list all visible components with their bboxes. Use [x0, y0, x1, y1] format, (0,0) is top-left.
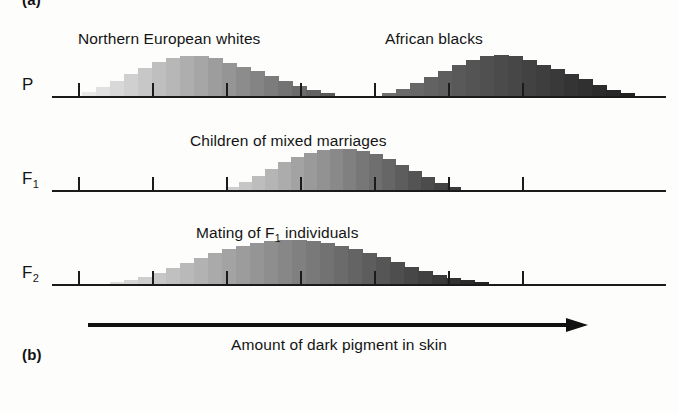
polygenic-inheritance-figure: (a) P Northern European whites African b… [0, 0, 678, 413]
caption-african-blacks: African blacks [385, 30, 483, 48]
histogram-bar [194, 258, 209, 284]
histogram-bar [550, 69, 565, 96]
axis-f2 [52, 284, 666, 286]
histogram-bar [264, 76, 279, 96]
histogram-bar [343, 149, 357, 190]
panel-tag-b: (b) [22, 346, 42, 363]
histogram-bar [239, 182, 253, 190]
histogram-bar [432, 275, 447, 284]
histogram-bar [194, 56, 209, 96]
histogram-bar [138, 277, 153, 284]
histogram-bar [434, 183, 448, 190]
row-label-f2-text: F [22, 263, 33, 282]
pigment-axis-arrow [88, 318, 588, 334]
histogram-bar [166, 58, 181, 96]
histogram-bar [250, 71, 265, 96]
histogram-bar [348, 249, 363, 284]
histogram-bar [278, 162, 292, 190]
histogram-bar [390, 262, 405, 284]
histogram-bar [250, 243, 265, 284]
histogram-bar [522, 60, 537, 96]
histogram-bar [356, 151, 370, 190]
histogram-bar [236, 67, 251, 96]
row-label-f2-sub: 2 [33, 272, 39, 284]
axis-tick [152, 83, 154, 98]
histogram-bar [152, 62, 167, 96]
histogram-bar [278, 81, 293, 96]
histogram-bar [410, 83, 425, 96]
row-label-f1: F1 [22, 169, 39, 190]
axis-line-f2 [52, 284, 666, 286]
histogram-bar [208, 58, 223, 96]
histogram-bar [278, 240, 293, 284]
histogram-bar [265, 169, 279, 190]
histogram-bar [330, 149, 344, 190]
histogram-bar [395, 165, 409, 190]
histogram-bar [138, 68, 153, 96]
histogram-bar [466, 60, 481, 96]
axis-tick [448, 177, 450, 192]
caption-mating-of-f1-individuals: Mating of F1 individuals [196, 224, 358, 244]
axis-f1 [52, 190, 666, 192]
axis-tick [448, 271, 450, 286]
histogram-bar [334, 246, 349, 284]
histogram-bar [306, 241, 321, 284]
histogram-bar [452, 65, 467, 96]
histogram-bar [96, 87, 111, 96]
arrow-shaft [88, 323, 566, 327]
row-label-f2: F2 [22, 263, 39, 284]
histogram-bar [376, 257, 391, 284]
histogram-bar [317, 150, 331, 190]
histogram-bar [494, 55, 509, 96]
axis-tick [374, 177, 376, 192]
histogram-f2 [52, 224, 666, 284]
axis-tick [226, 271, 228, 286]
axis-tick [522, 83, 524, 98]
arrow-head-icon [566, 318, 588, 332]
row-label-f1-text: F [22, 169, 33, 188]
histogram-bar [404, 267, 419, 284]
histogram-bar [236, 246, 251, 284]
histogram-bar [222, 249, 237, 284]
axis-tick [78, 271, 80, 286]
histogram-bar [592, 85, 607, 96]
row-label-p: P [22, 75, 34, 96]
histogram-bar [208, 253, 223, 284]
histogram-bar [124, 74, 139, 96]
axis-tick [300, 83, 302, 98]
axis-line-p [52, 96, 666, 98]
histogram-bar [110, 81, 125, 96]
histogram-bar [480, 56, 495, 96]
row-label-f1-sub: 1 [33, 178, 39, 190]
axis-p [52, 96, 666, 98]
histogram-bar [320, 243, 335, 284]
row-label-p-text: P [22, 75, 34, 94]
histogram-bar [438, 71, 453, 96]
histogram-bar [508, 56, 523, 96]
caption-f2-part2: individuals [281, 224, 359, 241]
axis-tick [152, 271, 154, 286]
axis-tick [448, 83, 450, 98]
axis-tick [522, 271, 524, 286]
histogram-bar [264, 241, 279, 284]
axis-tick [522, 177, 524, 192]
caption-children-of-mixed-marriages: Children of mixed marriages [190, 132, 387, 150]
histogram-bar [304, 153, 318, 190]
caption-northern-european-whites: Northern European whites [78, 30, 260, 48]
histogram-bar [408, 171, 422, 190]
axis-tick [78, 83, 80, 98]
axis-caption: Amount of dark pigment in skin [0, 336, 678, 354]
panel-tag-a: (a) [22, 0, 41, 8]
histogram-bar [222, 63, 237, 96]
axis-tick [78, 177, 80, 192]
axis-tick [300, 271, 302, 286]
histogram-bar [152, 273, 167, 284]
axis-tick [300, 177, 302, 192]
axis-tick [374, 83, 376, 98]
histogram-bar [536, 65, 551, 96]
histogram-bar [418, 271, 433, 284]
histogram-bar [180, 56, 195, 96]
histogram-bar [396, 89, 411, 96]
histogram-bar [166, 268, 181, 284]
histogram-bar [180, 263, 195, 284]
